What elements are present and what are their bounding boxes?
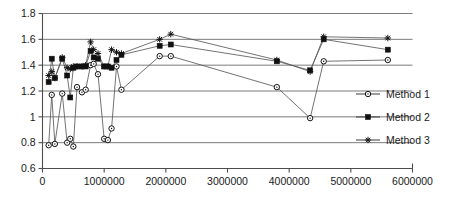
series-markers-method-2 bbox=[46, 37, 390, 100]
chart-legend: Method 1Method 2Method 3 bbox=[356, 88, 430, 146]
y-tick-label: 0.6 bbox=[21, 162, 36, 174]
data-point-marker bbox=[307, 68, 313, 74]
legend-label: Method 2 bbox=[386, 111, 430, 123]
data-point-marker bbox=[168, 42, 173, 47]
y-tick-label: 1.4 bbox=[21, 59, 36, 71]
data-point-marker-center bbox=[309, 117, 310, 118]
data-point-marker-center bbox=[85, 89, 86, 90]
chart-container: 0.60.811.21.41.61.8 01000000200000030000… bbox=[0, 0, 474, 204]
data-point-marker bbox=[113, 49, 119, 55]
x-tick-label: 4000000 bbox=[269, 175, 310, 187]
data-point-marker-center bbox=[66, 142, 67, 143]
data-point-marker-center bbox=[159, 55, 160, 56]
data-point-marker-center bbox=[70, 138, 71, 139]
data-point-marker-center bbox=[276, 86, 277, 87]
data-point-marker-center bbox=[121, 89, 122, 90]
data-point-marker-center bbox=[73, 146, 74, 147]
data-point-marker bbox=[95, 50, 101, 56]
legend-item-method-1[interactable]: Method 1 bbox=[356, 88, 430, 100]
data-point-marker bbox=[96, 56, 101, 61]
legend-item-method-2[interactable]: Method 2 bbox=[356, 111, 430, 123]
data-point-marker-center bbox=[111, 128, 112, 129]
y-tick-label: 0.8 bbox=[21, 136, 36, 148]
data-point-marker-center bbox=[107, 139, 108, 140]
data-point-marker-center bbox=[76, 86, 77, 87]
data-point-marker-center bbox=[97, 74, 98, 75]
data-point-marker-center bbox=[62, 93, 63, 94]
x-tick-label: 1000000 bbox=[84, 175, 125, 187]
data-point-marker bbox=[274, 57, 280, 63]
data-point-marker-center bbox=[323, 61, 324, 62]
x-tick-label: 5000000 bbox=[330, 175, 371, 187]
x-tick-label: 2000000 bbox=[145, 175, 186, 187]
data-point-marker bbox=[52, 75, 58, 81]
data-point-marker bbox=[157, 43, 162, 48]
series-markers-method-1 bbox=[46, 53, 391, 149]
x-tick-label: 6000000 bbox=[392, 175, 433, 187]
line-chart: 0.60.811.21.41.61.8 01000000200000030000… bbox=[0, 0, 474, 204]
data-point-marker bbox=[321, 34, 327, 40]
data-point-marker-center bbox=[54, 143, 55, 144]
data-point-marker bbox=[82, 62, 88, 68]
data-point-marker bbox=[46, 79, 51, 84]
data-point-marker bbox=[68, 95, 73, 100]
legend-marker-center bbox=[367, 93, 368, 94]
data-point-marker-center bbox=[387, 59, 388, 60]
x-tick-label: 0 bbox=[40, 175, 46, 187]
data-point-marker bbox=[114, 58, 119, 63]
data-point-marker bbox=[118, 50, 124, 56]
legend-marker bbox=[366, 115, 371, 120]
data-point-marker-center bbox=[81, 92, 82, 93]
data-point-marker bbox=[105, 63, 111, 69]
data-point-marker bbox=[65, 73, 70, 78]
data-point-marker bbox=[156, 36, 162, 42]
data-point-marker bbox=[385, 35, 391, 41]
legend-item-method-3[interactable]: Method 3 bbox=[356, 134, 430, 146]
series-markers bbox=[45, 31, 391, 149]
data-point-marker bbox=[385, 47, 390, 52]
data-point-marker-center bbox=[51, 94, 52, 95]
series-lines bbox=[49, 34, 388, 146]
data-point-marker bbox=[49, 68, 55, 74]
data-point-marker bbox=[45, 72, 51, 78]
x-tick-label: 3000000 bbox=[207, 175, 248, 187]
data-point-marker bbox=[168, 31, 174, 37]
data-point-marker bbox=[49, 56, 54, 61]
x-axis-tick-labels: 0100000020000003000000400000050000006000… bbox=[40, 175, 434, 187]
data-point-marker-center bbox=[48, 145, 49, 146]
data-point-marker bbox=[59, 54, 65, 60]
legend-label: Method 3 bbox=[386, 134, 430, 146]
data-point-marker-center bbox=[103, 138, 104, 139]
data-point-marker bbox=[87, 39, 93, 45]
data-point-marker-center bbox=[170, 55, 171, 56]
y-tick-label: 1.2 bbox=[21, 85, 36, 97]
legend-marker bbox=[365, 137, 371, 143]
series-line-method-1 bbox=[49, 56, 388, 146]
data-point-marker-center bbox=[116, 66, 117, 67]
y-axis-tick-labels: 0.60.811.21.41.61.8 bbox=[21, 7, 36, 174]
legend-label: Method 1 bbox=[386, 88, 430, 100]
data-point-marker-center bbox=[93, 63, 94, 64]
y-tick-label: 1.6 bbox=[21, 33, 36, 45]
y-tick-label: 1.8 bbox=[21, 7, 36, 19]
y-tick-label: 1 bbox=[30, 111, 36, 123]
